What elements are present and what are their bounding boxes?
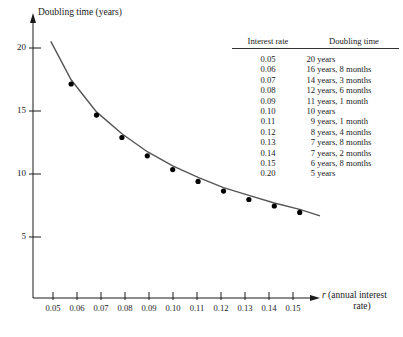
cell-doubling-time: 11 years, 1 month <box>304 96 399 106</box>
column-header-interest-rate: Interest rate <box>232 36 304 46</box>
x-tick-label-011: 0.11 <box>184 303 210 313</box>
cell-doubling-time-years: 7 <box>304 137 315 147</box>
y-axis-title: Doubling time (years) <box>38 7 122 17</box>
column-header-doubling-time: Doubling time <box>309 36 399 46</box>
cell-doubling-time: 7 years, 8 months <box>304 137 399 147</box>
cell-interest-rate: 0.11 <box>232 116 304 126</box>
data-point-marker <box>246 197 251 202</box>
data-point-marker <box>170 167 175 172</box>
x-tick-label-013: 0.13 <box>232 303 258 313</box>
x-tick-marks <box>53 292 293 300</box>
x-tick-label-010: 0.10 <box>160 303 186 313</box>
cell-doubling-time: 5 years <box>304 168 399 178</box>
cell-doubling-time: 20 years <box>304 54 399 64</box>
data-point-marker <box>196 179 201 184</box>
table-row: 0.0911 years, 1 month <box>232 96 399 106</box>
cell-doubling-time-units: years <box>315 106 335 116</box>
cell-doubling-time-years: 11 <box>304 96 315 106</box>
y-tick-label-5: 5 <box>8 231 26 241</box>
table-row: 0.0616 years, 8 months <box>232 64 399 74</box>
table-row: 0.119 years, 1 month <box>232 116 399 126</box>
y-axis <box>30 13 36 298</box>
cell-interest-rate: 0.08 <box>232 85 304 95</box>
x-axis-variable: r <box>322 290 326 300</box>
cell-doubling-time: 8 years, 4 months <box>304 127 399 137</box>
x-tick-label-006: 0.06 <box>64 303 90 313</box>
doubling-time-figure: Doubling time (years) r (annual interest… <box>0 0 403 337</box>
cell-doubling-time: 9 years, 1 month <box>304 116 399 126</box>
cell-doubling-time-years: 9 <box>304 116 315 126</box>
cell-doubling-time-units: years, 8 months <box>315 64 371 74</box>
data-point-marker <box>272 203 277 208</box>
data-point-marker <box>221 189 226 194</box>
cell-interest-rate: 0.10 <box>232 106 304 116</box>
cell-doubling-time: 12 years, 6 months <box>304 85 399 95</box>
cell-doubling-time-years: 6 <box>304 158 315 168</box>
cell-interest-rate: 0.09 <box>232 96 304 106</box>
table-header-row: Interest rate Doubling time <box>232 36 399 49</box>
cell-doubling-time-years: 8 <box>304 127 315 137</box>
x-axis <box>33 295 320 301</box>
table-row: 0.156 years, 8 months <box>232 158 399 168</box>
table-row: 0.128 years, 4 months <box>232 127 399 137</box>
cell-interest-rate: 0.06 <box>232 64 304 74</box>
y-tick-label-10: 10 <box>8 168 26 178</box>
y-tick-label-15: 15 <box>8 105 26 115</box>
cell-doubling-time-units: years, 8 months <box>315 137 371 147</box>
x-tick-label-009: 0.09 <box>136 303 162 313</box>
x-axis-title-line2: rate) <box>322 301 402 312</box>
table-row: 0.0714 years, 3 months <box>232 75 399 85</box>
cell-doubling-time: 10 years <box>304 106 399 116</box>
x-tick-label-012: 0.12 <box>208 303 234 313</box>
data-point-marker <box>297 210 302 215</box>
cell-interest-rate: 0.12 <box>232 127 304 137</box>
table-row: 0.0812 years, 6 months <box>232 85 399 95</box>
data-point-marker <box>119 135 124 140</box>
cell-doubling-time: 6 years, 8 months <box>304 158 399 168</box>
cell-interest-rate: 0.15 <box>232 158 304 168</box>
cell-doubling-time: 16 years, 8 months <box>304 64 399 74</box>
table-body: 0.0520 years0.0616 years, 8 months0.0714… <box>232 54 399 179</box>
cell-doubling-time-units: years, 1 month <box>315 96 368 106</box>
cell-doubling-time-units: years, 2 months <box>315 148 371 158</box>
cell-doubling-time-years: 10 <box>304 106 315 116</box>
table-row: 0.1010 years <box>232 106 399 116</box>
cell-interest-rate: 0.05 <box>232 54 304 64</box>
x-tick-label-015: 0.15 <box>280 303 306 313</box>
data-point-marker <box>94 113 99 118</box>
cell-doubling-time-units: years, 1 month <box>315 116 368 126</box>
cell-doubling-time-units: years, 8 months <box>315 158 371 168</box>
cell-doubling-time-units: years <box>315 168 335 178</box>
cell-interest-rate: 0.13 <box>232 137 304 147</box>
cell-doubling-time-units: years, 3 months <box>315 75 371 85</box>
cell-doubling-time-years: 20 <box>304 54 315 64</box>
cell-doubling-time: 14 years, 3 months <box>304 75 399 85</box>
cell-interest-rate: 0.14 <box>232 148 304 158</box>
cell-doubling-time-units: years, 6 months <box>315 85 371 95</box>
cell-doubling-time-years: 12 <box>304 85 315 95</box>
x-tick-label-007: 0.07 <box>88 303 114 313</box>
cell-interest-rate: 0.07 <box>232 75 304 85</box>
cell-interest-rate: 0.20 <box>232 168 304 178</box>
table-row: 0.0520 years <box>232 54 399 64</box>
table-row: 0.147 years, 2 months <box>232 148 399 158</box>
x-axis-title-line1: (annual interest <box>328 290 387 300</box>
cell-doubling-time-years: 16 <box>304 64 315 74</box>
cell-doubling-time-years: 14 <box>304 75 315 85</box>
data-point-marker <box>69 81 74 86</box>
x-tick-label-008: 0.08 <box>112 303 138 313</box>
x-tick-label-005: 0.05 <box>40 303 66 313</box>
y-tick-marks <box>29 48 41 237</box>
x-axis-title: r (annual interest rate) <box>322 290 402 312</box>
cell-doubling-time-years: 7 <box>304 148 315 158</box>
cell-doubling-time-units: years <box>315 54 335 64</box>
y-tick-label-20: 20 <box>8 42 26 52</box>
table-row: 0.205 years <box>232 168 399 178</box>
data-point-marker <box>145 153 150 158</box>
doubling-time-table: Interest rate Doubling time 0.0520 years… <box>232 36 399 179</box>
cell-doubling-time-units: years, 4 months <box>315 127 371 137</box>
x-tick-label-014: 0.14 <box>256 303 282 313</box>
cell-doubling-time-years: 5 <box>304 168 315 178</box>
cell-doubling-time: 7 years, 2 months <box>304 148 399 158</box>
table-row: 0.137 years, 8 months <box>232 137 399 147</box>
